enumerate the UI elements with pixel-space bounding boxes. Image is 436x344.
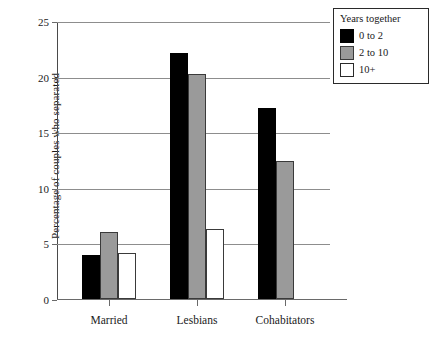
legend: Years together 0 to 22 to 1010+: [333, 8, 429, 84]
legend-label: 2 to 10: [359, 47, 388, 58]
bar-cohabitators-2-to-10: [276, 161, 294, 299]
bar-married-10-: [118, 253, 136, 299]
bar-lesbians-10-: [206, 229, 224, 299]
legend-item: 0 to 2: [340, 27, 423, 44]
y-tick-mark: [52, 22, 57, 23]
y-axis-line: [57, 22, 58, 300]
y-tick-mark: [52, 78, 57, 79]
plot-area: 0510152025 MarriedLesbiansCohabitators: [57, 22, 330, 300]
y-tick-label: 0: [44, 294, 50, 306]
bar-chart: Percentage of couples who separated 0510…: [0, 0, 436, 344]
x-tick-mark: [197, 300, 198, 306]
legend-entries: 0 to 22 to 1010+: [340, 27, 423, 78]
y-tick-mark: [52, 133, 57, 134]
x-tick-label-lesbians: Lesbians: [177, 314, 218, 326]
legend-title: Years together: [340, 13, 423, 24]
x-tick-label-cohabitators: Cohabitators: [256, 314, 315, 326]
y-tick-label: 20: [38, 72, 49, 84]
x-axis-line: [57, 299, 347, 300]
x-tick-label-married: Married: [90, 314, 127, 326]
bar-lesbians-2-to-10: [188, 74, 206, 299]
gridline: [57, 22, 330, 23]
y-tick-label: 5: [44, 238, 50, 250]
y-tick-label: 10: [38, 183, 49, 195]
bar-married-2-to-10: [100, 232, 118, 299]
legend-item: 10+: [340, 61, 423, 78]
bar-lesbians-0-to-2: [170, 53, 188, 299]
y-tick-mark: [52, 189, 57, 190]
y-tick-label: 15: [38, 127, 49, 139]
legend-swatch-icon: [340, 63, 354, 77]
y-tick-label: 25: [38, 16, 49, 28]
legend-label: 10+: [359, 64, 375, 75]
legend-swatch-icon: [340, 46, 354, 60]
y-tick-mark: [52, 300, 57, 301]
y-tick-mark: [52, 244, 57, 245]
legend-label: 0 to 2: [359, 30, 383, 41]
legend-swatch-icon: [340, 29, 354, 43]
x-tick-mark: [285, 300, 286, 306]
bar-married-0-to-2: [82, 255, 100, 299]
legend-item: 2 to 10: [340, 44, 423, 61]
x-tick-mark: [109, 300, 110, 306]
bar-cohabitators-0-to-2: [258, 108, 276, 299]
